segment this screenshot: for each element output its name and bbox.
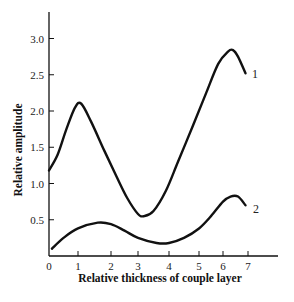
svg-text:1: 1 — [75, 260, 81, 272]
curve-1-label: 1 — [252, 67, 258, 81]
curve-2-label: 2 — [253, 202, 259, 216]
y-ticks: 0.51.01.52.02.53.0 — [30, 33, 54, 226]
line-chart: 01234567 0.51.01.52.02.53.0 1 2 Relative… — [0, 0, 294, 302]
svg-text:1.0: 1.0 — [30, 178, 44, 190]
x-ticks: 01234567 — [46, 251, 251, 272]
svg-text:7: 7 — [245, 260, 251, 272]
svg-text:0.5: 0.5 — [30, 214, 44, 226]
curve-2 — [52, 196, 246, 249]
svg-text:0: 0 — [46, 260, 52, 272]
y-axis-title: Relative amplitude — [12, 104, 25, 197]
svg-text:3: 3 — [135, 260, 141, 272]
svg-text:6: 6 — [220, 260, 226, 272]
svg-text:1.5: 1.5 — [30, 141, 44, 153]
svg-text:2.0: 2.0 — [30, 105, 44, 117]
svg-text:5: 5 — [196, 260, 202, 272]
svg-text:2.5: 2.5 — [30, 69, 44, 81]
x-axis-title: Relative thickness of couple layer — [78, 272, 242, 285]
svg-text:2: 2 — [108, 260, 114, 272]
curve-1 — [49, 50, 246, 217]
svg-text:3.0: 3.0 — [30, 33, 44, 45]
svg-text:4: 4 — [166, 260, 172, 272]
curves — [49, 50, 246, 249]
